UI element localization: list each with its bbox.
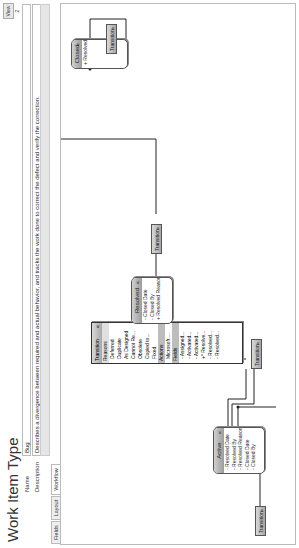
field-item: +* Resolve... <box>200 323 207 363</box>
state-name: Resolved <box>134 288 140 313</box>
workflow-canvas[interactable]: Transition » Active « - Resolved Date - … <box>60 3 296 545</box>
actions-header[interactable]: Actions <box>158 323 165 363</box>
state-header: Resolved « <box>132 278 142 323</box>
reason-item: Duplicate <box>116 323 123 363</box>
transition-closed[interactable]: Transition » <box>106 24 117 54</box>
state-field: - Resolved Reason <box>237 428 244 473</box>
collapse-icon[interactable]: « <box>214 431 224 434</box>
view-button[interactable]: View 2 <box>3 3 14 19</box>
transition-resolved-closed[interactable]: Transition » <box>151 224 162 254</box>
transition-label: Transition <box>258 511 264 533</box>
name-label: Name <box>24 476 30 492</box>
name-field[interactable]: Bug <box>22 4 31 456</box>
field-item: - Activated... <box>186 323 193 363</box>
transition-expanded[interactable]: Transition « Reasons Deferred Duplicate … <box>91 322 243 364</box>
transition-label: Transition <box>94 339 100 361</box>
chevron-down-icon[interactable]: » <box>256 509 267 512</box>
state-name: Closed <box>74 45 80 64</box>
state-active[interactable]: Active « - Resolved Date - Resolved By -… <box>213 427 265 474</box>
state-field: + Resolved Reason <box>82 40 89 68</box>
state-field: + Resolved Reason <box>155 278 162 323</box>
page-title: Work Item Type <box>4 438 21 542</box>
field-item: - Resolved... <box>214 323 221 363</box>
collapse-icon[interactable]: « <box>92 325 102 328</box>
reasons-header[interactable]: Reasons <box>102 323 109 363</box>
state-name: Active <box>216 442 222 458</box>
reason-item: As Designed <box>123 323 130 363</box>
work-item-type-editor: Work Item Type View 2 Name Bug Descripti… <box>0 0 299 548</box>
transition-label: Transition <box>254 344 260 366</box>
collapse-icon[interactable]: « <box>132 281 142 284</box>
transition-active-resolved[interactable]: Transition » <box>251 339 262 369</box>
transition-initial[interactable]: Transition » <box>255 506 266 536</box>
field-item: - Activated... <box>193 323 200 363</box>
state-header: Active « <box>214 428 224 473</box>
transition-header: Transition « <box>92 323 102 363</box>
description-label: Description <box>34 462 40 492</box>
description-extra <box>40 4 50 456</box>
transition-label: Transition <box>109 29 115 51</box>
reason-item: Cannot Re... <box>130 323 137 363</box>
chevron-down-icon[interactable]: » <box>107 27 118 30</box>
state-field: - Resolved Date <box>224 428 231 473</box>
state-resolved[interactable]: Resolved « - Closed Date - Closed By + R… <box>131 277 173 324</box>
state-field: - Closed By <box>250 428 257 473</box>
transition-label: Transition <box>154 229 160 251</box>
field-item: - Assigned... <box>179 323 186 363</box>
action-item: Microsoft.... <box>165 323 172 363</box>
state-closed[interactable]: Closed « + Resolved Reason <box>71 39 128 69</box>
collapse-icon[interactable]: « <box>72 43 82 46</box>
fields-header[interactable]: Fields <box>172 323 179 363</box>
reason-item: Fixed <box>151 323 158 363</box>
reason-item: Copied to... <box>144 323 151 363</box>
reason-item: Obsolete <box>137 323 144 363</box>
chevron-down-icon[interactable]: » <box>252 342 263 345</box>
reason-item: Deferred <box>109 323 116 363</box>
chevron-down-icon[interactable]: » <box>152 227 163 230</box>
state-header: Closed « <box>72 40 82 68</box>
field-item: - Resolved... <box>207 323 214 363</box>
